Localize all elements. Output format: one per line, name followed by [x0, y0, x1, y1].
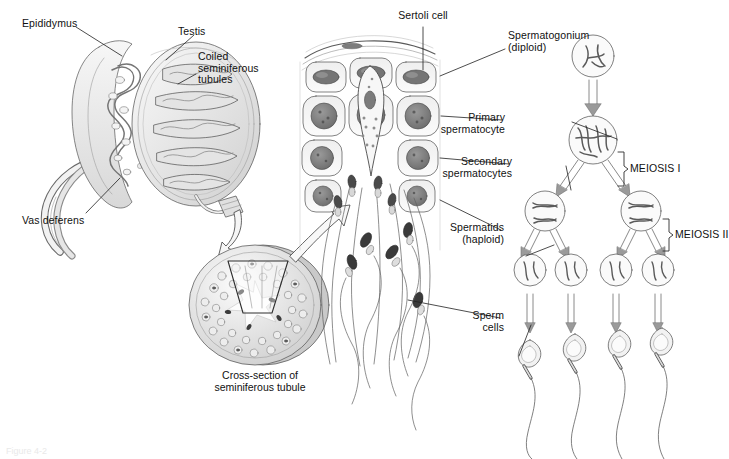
label-coiled-seminiferous-tubules: Coiled seminiferous tubules [198, 51, 259, 86]
sperm-cell [563, 334, 586, 459]
label-meiosis-1: MEIOSIS I [630, 163, 681, 175]
spermatid-cells [514, 254, 674, 286]
division-arrow-1 [585, 80, 601, 116]
meiosis-lineage-tree [514, 35, 674, 459]
sperm-cells-group [518, 328, 673, 459]
label-sertoli-cell: Sertoli cell [382, 10, 464, 22]
label-meiosis-2: MEIOSIS II [675, 229, 729, 241]
label-spermatogonium: Spermatogonium (diploid) [508, 30, 589, 53]
label-sperm-cells: Sperm cells [452, 310, 504, 333]
spermatid-row [305, 180, 435, 212]
sperm-cell [650, 328, 673, 459]
caption-cross-section: Cross-section of seminiferous tubule [185, 370, 335, 393]
secondary-spermatocyte-cells [525, 191, 661, 231]
cross-section-illustration [189, 245, 329, 365]
label-vas-deferens: Vas deferens [22, 215, 84, 227]
meiosis-1-arrows [556, 160, 630, 197]
meiosis-2-arrows [521, 229, 665, 259]
label-testis: Testis [178, 26, 205, 38]
label-secondary-spermatocytes: Secondary spermatocytes [436, 156, 512, 179]
label-primary-spermatocyte: Primary spermatocyte [440, 112, 505, 135]
meiosis-2-bracket [663, 219, 673, 251]
sperm-cell [608, 330, 631, 459]
figure-caption-cut: Figure 4-2 [6, 446, 47, 456]
maturation-arrows [527, 294, 661, 324]
sperm-cell [518, 340, 541, 459]
sertoli-cell [358, 66, 384, 176]
label-epididymus: Epididymus [22, 18, 77, 30]
label-spermatids: Spermatids (haploid) [438, 222, 504, 245]
